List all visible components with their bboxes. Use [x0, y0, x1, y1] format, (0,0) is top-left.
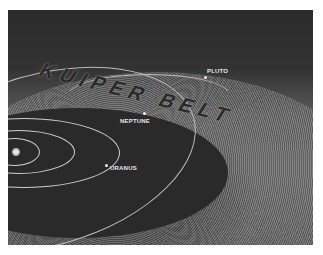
neptune-dot	[143, 112, 146, 115]
pluto-dot	[204, 76, 207, 79]
uranus-dot	[105, 164, 108, 167]
sun	[12, 148, 20, 156]
uranus-label: URANUS	[110, 165, 137, 171]
kuiper-belt-illustration: KUIPER BELT PLUTO NEPTUNE URANUS	[8, 10, 313, 245]
pluto-label: PLUTO	[207, 68, 228, 74]
neptune-label: NEPTUNE	[120, 118, 150, 124]
